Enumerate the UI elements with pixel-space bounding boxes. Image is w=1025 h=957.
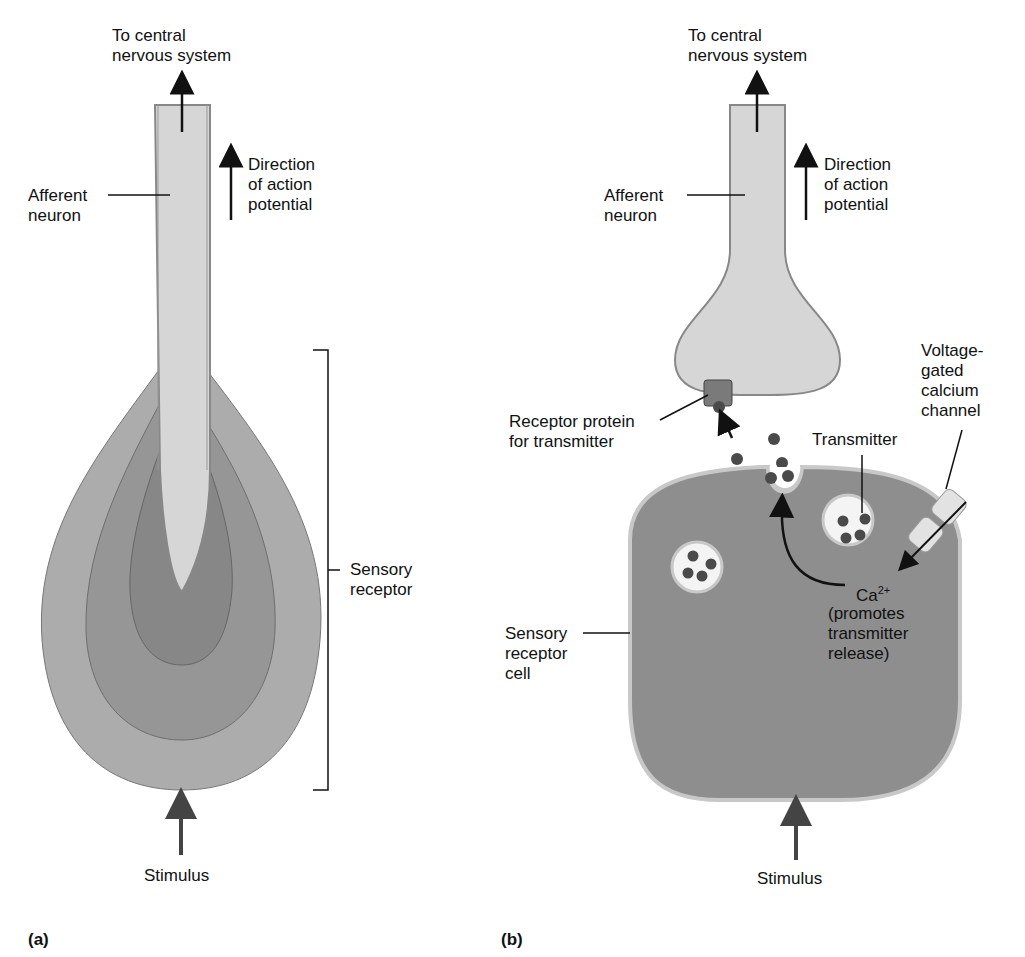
release-arrow [724, 420, 732, 438]
label-receptor-protein: Receptor protein for transmitter [509, 412, 635, 452]
label-direction-a: Direction of action potential [248, 155, 315, 215]
channel-leader [946, 430, 962, 489]
label-calcium: Ca2+ [856, 580, 890, 606]
panel-a-tag: (a) [28, 930, 49, 950]
receptor-leader [660, 395, 708, 420]
label-afferent-neuron-b: Afferent neuron [604, 186, 663, 226]
label-ca-note: (promotes transmitter release) [828, 604, 908, 664]
label-to-cns-b: To central nervous system [688, 26, 807, 66]
label-sensory-receptor-cell: Sensory receptor cell [505, 624, 567, 684]
afferent-neuron-a [155, 105, 210, 592]
label-direction-b: Direction of action potential [824, 155, 891, 215]
label-stimulus-a: Stimulus [144, 866, 209, 886]
label-afferent-neuron-a: Afferent neuron [28, 186, 87, 226]
panel-b-tag: (b) [501, 930, 523, 950]
afferent-neuron-b [675, 105, 840, 395]
diagram-canvas [0, 0, 1025, 957]
label-voltage-gated-channel: Voltage- gated calcium channel [921, 341, 983, 421]
label-stimulus-b: Stimulus [757, 869, 822, 889]
sensory-receptor-cell [630, 433, 969, 800]
receptor-bracket [313, 350, 340, 790]
label-transmitter: Transmitter [812, 430, 897, 450]
panel-b-terminal [675, 105, 840, 413]
label-to-cns-a: To central nervous system [112, 26, 231, 66]
label-sensory-receptor: Sensory receptor [350, 560, 412, 600]
